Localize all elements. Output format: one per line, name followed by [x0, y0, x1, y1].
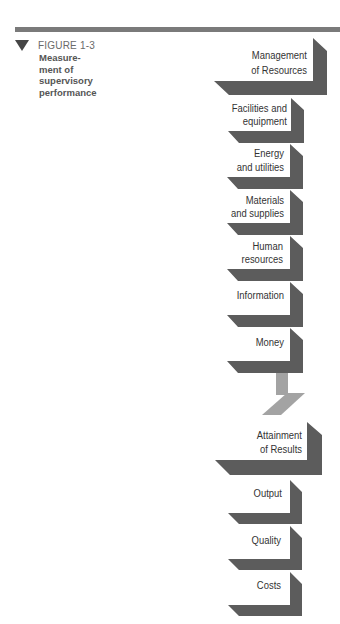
resources-header-block: Management of Resources [214, 38, 327, 95]
block-label: Attainment [257, 429, 302, 441]
block-label: Costs [257, 579, 281, 591]
connector-diagonal [262, 393, 305, 415]
block-shadow [227, 328, 303, 373]
resource-block-money: Money [227, 328, 303, 373]
block-label: Facilities and [232, 102, 287, 114]
block-label: Management [252, 49, 307, 61]
result-block-costs: Costs [228, 572, 302, 616]
block-label: Quality [252, 534, 282, 546]
block-label: Materials [246, 194, 284, 206]
resource-block-facilities: Facilities and equipment [228, 98, 304, 143]
block-shadow [228, 526, 302, 570]
block-label: and supplies [231, 207, 284, 219]
block-label: Energy [254, 147, 285, 159]
connector-arrow [262, 373, 305, 415]
results-header-block: Attainment of Results [215, 422, 322, 475]
result-block-output: Output [228, 480, 302, 524]
connector-bar [276, 373, 288, 395]
block-label: of Results [260, 443, 302, 455]
resource-block-information: Information [227, 282, 303, 327]
block-label: Money [256, 336, 285, 348]
block-label: resources [241, 253, 283, 265]
block-label: Information [237, 289, 285, 301]
block-label: equipment [243, 115, 287, 127]
block-label: Output [254, 487, 283, 499]
block-label: Human [253, 240, 284, 252]
resource-block-energy: Energy and utilities [227, 144, 303, 189]
resource-block-human: Human resources [227, 236, 303, 281]
performance-diagram: Management of Resources Facilities and e… [0, 0, 340, 624]
block-label: and utilities [237, 161, 284, 173]
resource-block-materials: Materials and supplies [227, 190, 303, 235]
block-label: of Resources [251, 64, 307, 76]
result-block-quality: Quality [228, 526, 302, 570]
